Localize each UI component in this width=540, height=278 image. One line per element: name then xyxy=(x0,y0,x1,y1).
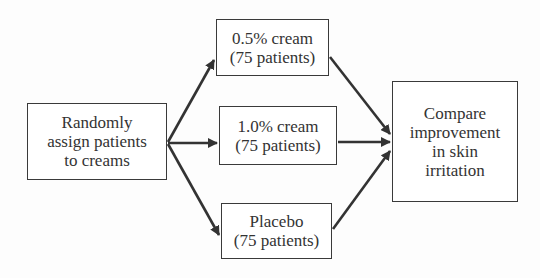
node-placebo: Placebo (75 patients) xyxy=(221,203,332,259)
node-cream-0-5: 0.5% cream (75 patients) xyxy=(216,19,329,76)
node-cream-1-0: 1.0% cream (75 patients) xyxy=(219,106,337,165)
node-randomly-assign: Randomly assign patients to creams xyxy=(27,103,167,180)
arrow-assign-to-placebo xyxy=(168,144,219,235)
flowchart-canvas: Randomly assign patients to creams 0.5% … xyxy=(0,0,540,278)
node-text-line: Compare xyxy=(424,104,486,123)
node-text-line: to creams xyxy=(64,151,130,170)
node-text-line: assign patients xyxy=(47,132,147,151)
arrow-cream05-to-compare xyxy=(330,57,390,134)
node-compare-improvement: Compare improvement in skin irritation xyxy=(392,81,518,202)
arrow-assign-to-cream05 xyxy=(168,60,214,142)
node-text-line: (75 patients) xyxy=(230,48,315,67)
arrow-placebo-to-compare xyxy=(333,151,390,229)
node-text-line: (75 patients) xyxy=(235,136,320,155)
node-text-line: (75 patients) xyxy=(234,231,319,250)
node-text-line: in skin xyxy=(432,142,478,161)
node-text-line: 0.5% cream xyxy=(232,29,313,48)
node-text-line: Placebo xyxy=(250,212,304,231)
node-text-line: Randomly xyxy=(62,113,133,132)
node-text-line: improvement xyxy=(410,123,501,142)
node-text-line: 1.0% cream xyxy=(237,117,318,136)
node-text-line: irritation xyxy=(425,161,484,180)
